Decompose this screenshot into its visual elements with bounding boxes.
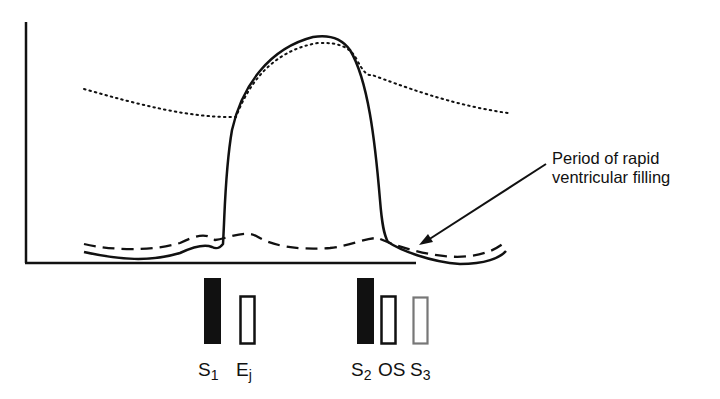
marker-s2: [357, 278, 374, 344]
marker-ej: [241, 297, 255, 344]
marker-s1: [204, 278, 221, 344]
label-os: OS: [378, 359, 405, 380]
heart-sound-markers: [204, 278, 428, 344]
arrowhead-icon: [419, 234, 433, 245]
label-s2: S2: [351, 359, 372, 383]
label-ej: Ej: [236, 359, 252, 383]
rapid-filling-annotation: Period of rapid ventricular filling: [552, 149, 670, 187]
label-s1: S1: [198, 359, 219, 383]
annotation-line-2: ventricular filling: [552, 168, 670, 187]
label-s3: S3: [410, 359, 431, 383]
marker-labels: S1 Ej S2 OS S3: [198, 359, 431, 383]
marker-os: [382, 297, 396, 344]
axes: [25, 22, 416, 263]
marker-s3: [414, 298, 428, 344]
atrial-pressure-curve: [84, 234, 504, 257]
heart-sounds-pressure-diagram: S1 Ej S2 OS S3: [0, 0, 720, 399]
arterial-pressure-curve: [84, 43, 508, 117]
annotation-line-1: Period of rapid: [552, 149, 670, 168]
annotation-arrow: [419, 164, 546, 245]
